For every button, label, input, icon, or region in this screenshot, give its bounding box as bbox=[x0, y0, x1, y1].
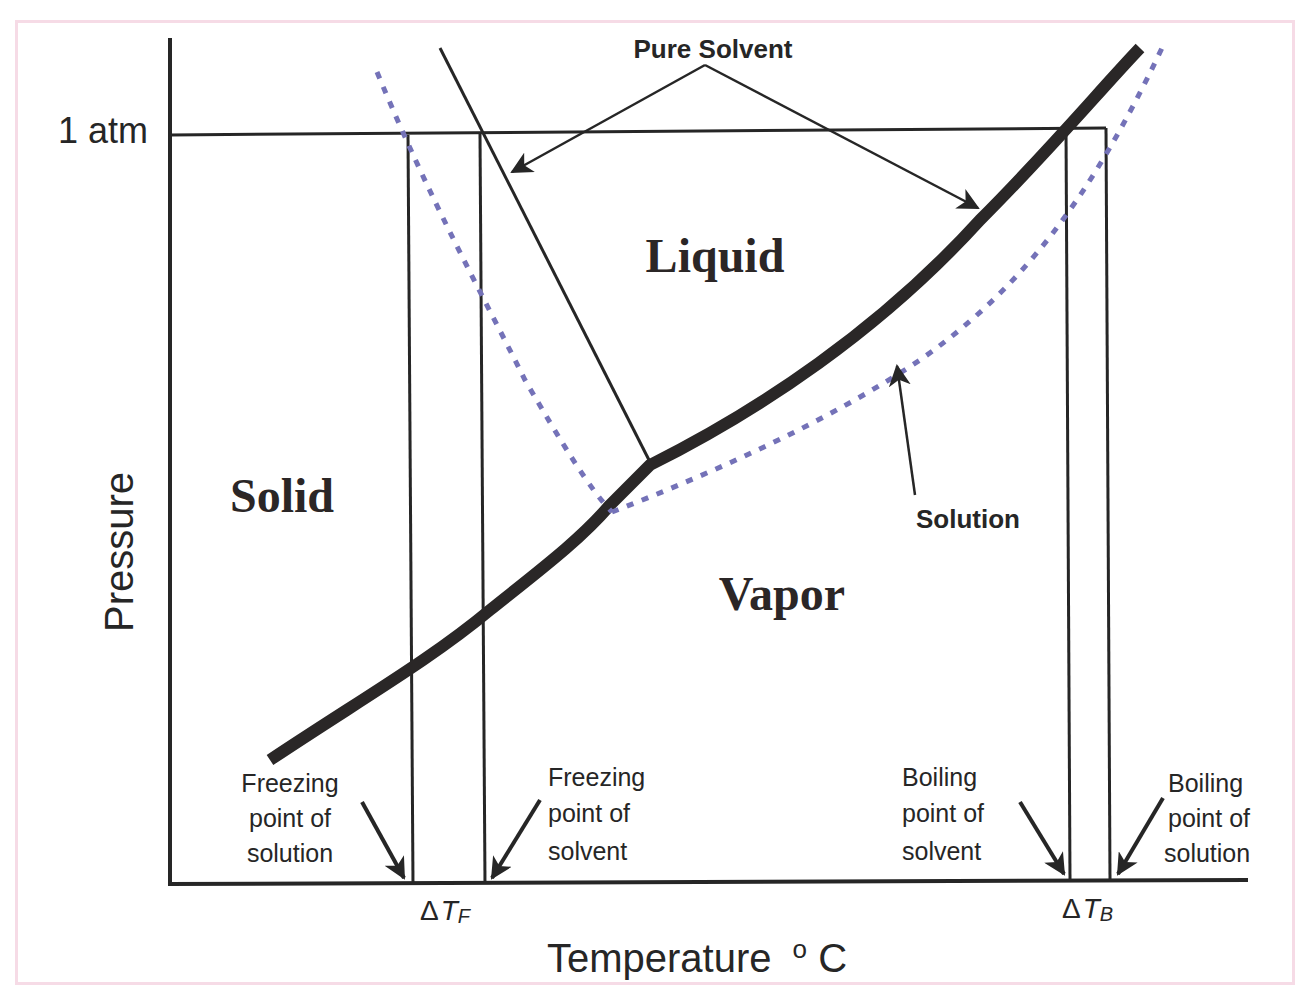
svg-text:solvent: solvent bbox=[548, 837, 627, 865]
svg-text:Freezing: Freezing bbox=[241, 769, 338, 797]
svg-text:solvent: solvent bbox=[902, 837, 981, 865]
y-axis-label: Pressure bbox=[97, 472, 141, 632]
x-axis bbox=[168, 880, 1248, 884]
pure-solvent-label: Pure Solvent bbox=[634, 34, 793, 64]
fp-solvent-line bbox=[480, 134, 485, 884]
bp-solvent-annotation: Boiling point of solvent bbox=[902, 763, 1064, 874]
bp-solution-arrow bbox=[1118, 798, 1163, 874]
svg-text:point of: point of bbox=[249, 804, 331, 832]
fp-solution-annotation: Freezing point of solution bbox=[241, 769, 404, 878]
fp-solution-line bbox=[408, 135, 413, 884]
solid-region-label: Solid bbox=[230, 469, 334, 522]
bp-solution-line bbox=[1106, 128, 1110, 880]
fp-solvent-arrow bbox=[492, 800, 540, 878]
pure-solvent-arrow-left bbox=[512, 65, 705, 172]
one-atm-label: 1 atm bbox=[58, 110, 148, 151]
svg-text:Boiling: Boiling bbox=[902, 763, 977, 791]
x-axis-unit: C bbox=[818, 936, 847, 980]
liquid-region-label: Liquid bbox=[646, 229, 785, 282]
svg-text:point of: point of bbox=[1168, 804, 1250, 832]
solution-label: Solution bbox=[916, 504, 1020, 534]
solution-arrow bbox=[897, 366, 915, 495]
delta-tb-label: ΔTB bbox=[1062, 893, 1113, 925]
vapor-region-label: Vapor bbox=[719, 567, 845, 620]
solution-fusion-curve bbox=[377, 72, 612, 512]
bp-solution-annotation: Boiling point of solution bbox=[1118, 769, 1250, 874]
svg-text:solution: solution bbox=[247, 839, 333, 867]
fp-solution-arrow bbox=[362, 802, 404, 878]
one-atm-line bbox=[170, 128, 1106, 135]
x-axis-label: Temperature o C bbox=[547, 922, 847, 980]
pure-solvent-fusion-curve bbox=[440, 48, 650, 462]
x-axis-label-text: Temperature bbox=[547, 936, 772, 980]
pure-solvent-arrow-right bbox=[705, 65, 978, 208]
phase-diagram: Pure Solvent Solution Liquid Solid Vapor… bbox=[0, 0, 1313, 1002]
svg-text:point of: point of bbox=[902, 799, 984, 827]
svg-text:point of: point of bbox=[548, 799, 630, 827]
x-axis-degree: o bbox=[793, 934, 807, 964]
svg-text:Freezing: Freezing bbox=[548, 763, 645, 791]
pure-solvent-vapor-curve bbox=[270, 48, 1140, 760]
svg-text:Boiling: Boiling bbox=[1168, 769, 1243, 797]
bp-solvent-line bbox=[1066, 129, 1070, 880]
bp-solvent-arrow bbox=[1020, 802, 1064, 874]
svg-text:solution: solution bbox=[1164, 839, 1250, 867]
delta-tf-label: ΔTF bbox=[420, 895, 472, 927]
fp-solvent-annotation: Freezing point of solvent bbox=[492, 763, 645, 878]
